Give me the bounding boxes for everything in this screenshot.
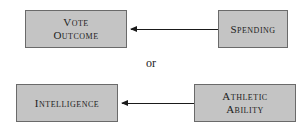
athletic-ability-label-line1: Athletic xyxy=(222,90,267,103)
arrow-left-icon xyxy=(131,29,218,30)
spending-label: Spending xyxy=(230,23,275,36)
or-separator: or xyxy=(146,56,156,71)
intelligence-label: Intelligence xyxy=(35,97,99,110)
vote-outcome-label-line1: Vote xyxy=(53,16,98,29)
arrow-left-icon xyxy=(122,103,194,104)
athletic-ability-label-line2: Ability xyxy=(222,103,267,116)
intelligence-box: Intelligence xyxy=(16,84,118,122)
athletic-ability-box: Athletic Ability xyxy=(194,84,296,122)
spending-box: Spending xyxy=(218,10,288,48)
vote-outcome-label-line2: Outcome xyxy=(53,29,98,42)
vote-outcome-box: Vote Outcome xyxy=(25,10,127,48)
